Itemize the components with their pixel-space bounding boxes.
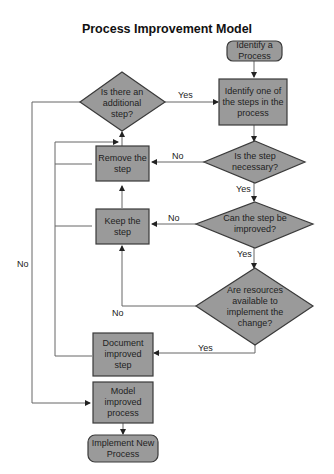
additional-step-label: Is there an additional step? xyxy=(96,88,148,118)
improved-label: Can the step be improved? xyxy=(218,210,292,238)
end-node-label: Implement New Process xyxy=(88,435,158,462)
edge-label-resources-yes: Yes xyxy=(198,343,213,354)
document-step-label: Document improved step xyxy=(95,333,151,376)
edge-label-necessary-no: No xyxy=(172,151,184,162)
edge-label-additional-yes: Yes xyxy=(178,90,193,101)
keep-step-label: Keep the step xyxy=(98,209,147,244)
model-process-label: Model improved process xyxy=(95,382,151,423)
edge-label-additional-no: No xyxy=(17,259,29,270)
identify-step-label: Identify one of the steps in the process xyxy=(221,79,285,125)
start-node-label: Identify a Process xyxy=(227,41,282,61)
remove-step-label: Remove the step xyxy=(98,146,147,181)
edge-label-necessary-yes: Yes xyxy=(236,184,251,195)
edge-label-improved-no: No xyxy=(168,213,180,224)
necessary-label: Is the step necessary? xyxy=(225,148,285,176)
resources-label: Are resources available to implement the… xyxy=(222,287,288,327)
edge-label-improved-yes: Yes xyxy=(237,249,252,260)
edge-label-resources-no: No xyxy=(112,308,124,319)
